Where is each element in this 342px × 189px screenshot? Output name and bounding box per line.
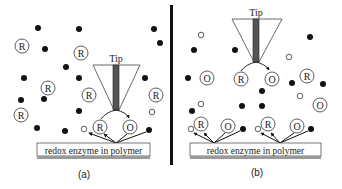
open-dots — [81, 109, 155, 132]
species-label: R — [18, 110, 25, 121]
species-o-bulk: O — [316, 100, 323, 111]
species-r-surface: R — [265, 119, 272, 130]
tip-arrow-in — [241, 62, 256, 71]
species-o-surface: O — [224, 121, 231, 132]
tip-arrow-in — [101, 110, 116, 119]
species-r-surface: R — [97, 122, 104, 133]
species-o-tip: O — [268, 74, 275, 85]
scanning-electrochemical-microscopy-diagram: R R R R R R Tip R O — [0, 0, 342, 189]
species-o-bulk: O — [203, 73, 210, 84]
tip-label: Tip — [109, 53, 123, 64]
species-label: R — [78, 48, 85, 59]
panel-divider — [170, 5, 173, 165]
tip-electrode — [113, 65, 119, 110]
substrate-base — [37, 156, 150, 159]
caption-b: (b) — [251, 167, 263, 178]
caption-a: (a) — [78, 169, 90, 180]
species-r-tip: R — [238, 74, 245, 85]
species-label: R — [45, 83, 52, 94]
tip-electrode — [253, 19, 259, 62]
species-label: R — [153, 90, 160, 101]
substrate-base — [190, 156, 321, 159]
species-label: R — [19, 41, 26, 52]
panel-b: O R O Tip R O R O R O — [185, 7, 327, 178]
tip-label: Tip — [249, 7, 263, 18]
substrate-arrows — [194, 131, 308, 143]
tip-b: Tip — [232, 7, 282, 71]
species-label: R — [86, 90, 93, 101]
substrate-label: redox enzyme in polymer — [207, 146, 305, 156]
species-r-surface: R — [198, 119, 205, 130]
tip-a: Tip — [93, 53, 140, 119]
species-o-surface: O — [126, 122, 133, 133]
tip-arrow-out — [256, 62, 269, 70]
filled-dots — [18, 25, 163, 134]
species-o-surface: O — [293, 121, 300, 132]
panel-a: R R R R R R Tip R O — [14, 25, 163, 180]
tip-arrow-out — [116, 110, 129, 118]
substrate-label: redox enzyme in polymer — [45, 146, 143, 156]
species-r-bulk: R — [304, 71, 311, 82]
species-r-bulk: R R R R R R — [14, 39, 163, 122]
